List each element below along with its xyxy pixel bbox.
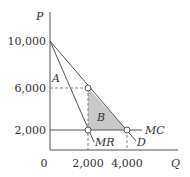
y-tick-6000: 6,000 [15, 82, 47, 95]
demand-label: D [136, 136, 146, 149]
x-axis-label: Q [171, 157, 180, 170]
mc-label: MC [144, 124, 165, 137]
y-tick-10000: 10,000 [8, 35, 47, 48]
y-axis-label: P [35, 10, 44, 23]
x-tick-2000: 2,000 [72, 157, 104, 170]
point-mr-mc [85, 127, 91, 133]
mr-label: MR [94, 136, 115, 149]
y-tick-2000: 2,000 [15, 124, 47, 137]
x-tick-4000: 4,000 [111, 157, 143, 170]
origin-label: 0 [41, 157, 48, 170]
region-a-label: A [51, 72, 60, 85]
monopoly-diagram: P Q 0 10,000 6,000 2,000 2,000 4,000 A B… [0, 0, 190, 177]
point-competitive [124, 127, 130, 133]
region-b-label: B [96, 111, 105, 124]
point-monopoly-price [85, 85, 91, 91]
